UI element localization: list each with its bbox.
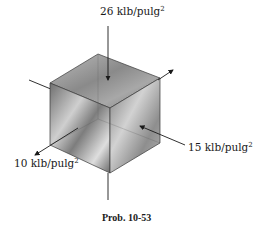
cube-drawing	[0, 0, 256, 229]
figure-caption: Prob. 10-53	[102, 212, 151, 223]
left-stress-label: 10 klb/pulg2	[14, 158, 79, 169]
right-stress-label: 15 klb/pulg2	[188, 142, 253, 153]
top-stress-label: 26 klb/pulg2	[100, 6, 165, 17]
upper-right-tension-arrow	[158, 70, 173, 80]
stress-cube-diagram: 26 klb/pulg2 15 klb/pulg2 10 klb/pulg2 P…	[0, 0, 256, 229]
